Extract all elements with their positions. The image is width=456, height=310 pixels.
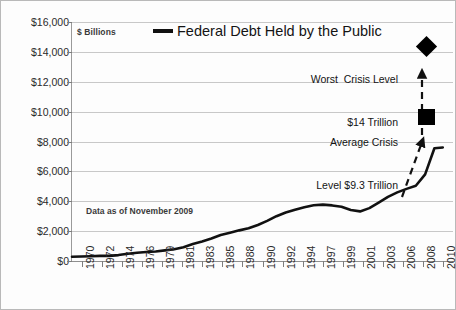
x-axis-label: 1976 bbox=[145, 246, 156, 269]
x-axis-label: 1994 bbox=[306, 246, 317, 269]
x-axis-tick bbox=[102, 261, 103, 267]
y-axis-label: $14,000 bbox=[9, 47, 69, 58]
x-axis-tick bbox=[263, 261, 264, 267]
annotation-average-crisis: Average Crisis Level $9.3 Trillion bbox=[316, 107, 398, 220]
x-axis-label: 1974 bbox=[125, 246, 136, 269]
y-axis-tick bbox=[67, 261, 72, 262]
x-axis-tick bbox=[423, 261, 424, 267]
x-axis-label: 1992 bbox=[286, 246, 297, 269]
y-axis-label: $6,000 bbox=[9, 166, 69, 177]
x-axis-label: 2003 bbox=[386, 246, 397, 269]
x-axis-tick bbox=[343, 261, 344, 267]
y-axis-label: $12,000 bbox=[9, 77, 69, 88]
y-axis-label: $16,000 bbox=[9, 17, 69, 28]
marker-square-average-crisis bbox=[418, 109, 435, 125]
x-axis-tick bbox=[383, 261, 384, 267]
annotation-worst-crisis-line1: Worst Crisis Level bbox=[311, 72, 398, 86]
x-axis-tick bbox=[363, 261, 364, 267]
annotation-average-crisis-line2: Level $9.3 Trillion bbox=[316, 178, 398, 192]
x-axis-label: 1972 bbox=[105, 246, 116, 269]
x-axis-label: 1979 bbox=[165, 246, 176, 269]
x-axis-label: 1970 bbox=[85, 246, 96, 269]
x-axis-tick bbox=[323, 261, 324, 267]
y-axis-label: $8,000 bbox=[9, 136, 69, 147]
x-axis-label: 1985 bbox=[225, 246, 236, 269]
arrow-to-square bbox=[402, 142, 422, 197]
x-axis-label: 1997 bbox=[326, 246, 337, 269]
y-axis-label: $4,000 bbox=[9, 196, 69, 207]
x-axis-label: 2006 bbox=[406, 246, 417, 269]
x-axis-label: 1983 bbox=[205, 246, 216, 269]
data-source-note: Data as of November 2009 bbox=[86, 206, 193, 216]
x-axis-tick bbox=[283, 261, 284, 267]
x-axis-label: 1990 bbox=[266, 246, 277, 269]
legend-line-swatch bbox=[153, 29, 173, 33]
x-axis-label: 2008 bbox=[426, 246, 437, 269]
chart-legend: Federal Debt Held by the Public bbox=[153, 23, 382, 39]
y-axis-label: $10,000 bbox=[9, 106, 69, 117]
annotation-average-crisis-line1: Average Crisis bbox=[316, 135, 398, 149]
y-axis-label: $2,000 bbox=[9, 226, 69, 237]
y-axis-label: $0 bbox=[9, 256, 69, 267]
chart-container: $0$2,000$4,000$6,000$8,000$10,000$12,000… bbox=[0, 0, 456, 310]
x-axis-label: 2010 bbox=[446, 246, 456, 269]
x-axis-tick bbox=[403, 261, 404, 267]
x-axis-label: 1988 bbox=[245, 246, 256, 269]
x-axis-tick bbox=[82, 261, 83, 267]
x-axis-tick bbox=[303, 261, 304, 267]
x-axis-label: 2001 bbox=[366, 246, 377, 269]
x-axis-label: 1981 bbox=[185, 246, 196, 269]
units-label: $ Billions bbox=[77, 27, 116, 37]
x-axis-tick bbox=[443, 261, 444, 267]
x-axis-label: 1999 bbox=[346, 246, 357, 269]
x-axis-tick bbox=[122, 261, 123, 267]
legend-label: Federal Debt Held by the Public bbox=[177, 23, 382, 39]
